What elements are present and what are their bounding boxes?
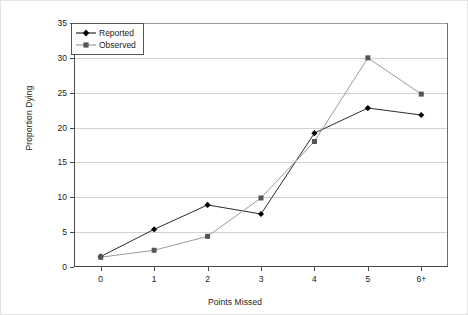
- x-tick-mark: [261, 267, 262, 271]
- x-tick-mark: [368, 267, 369, 271]
- x-tick-label: 0: [86, 275, 116, 284]
- y-tick-label: 20: [58, 124, 67, 133]
- data-point-square: [152, 248, 157, 253]
- data-point-square: [259, 195, 264, 200]
- data-point-square: [365, 55, 370, 60]
- legend-marker-square-icon: [76, 40, 96, 50]
- x-tick-label: 1: [139, 275, 169, 284]
- data-point-square: [205, 234, 210, 239]
- x-tick-label: 6+: [406, 275, 436, 284]
- legend-label-observed: Observed: [99, 41, 136, 50]
- x-tick-mark: [314, 267, 315, 271]
- y-axis-title: Proportion Dying: [24, 38, 34, 198]
- series-reported: [98, 105, 425, 260]
- plot-area: 05101520253035 0123456+: [74, 23, 448, 267]
- data-point-diamond: [365, 105, 371, 111]
- x-tick-mark: [421, 267, 422, 271]
- legend-marker-diamond-icon: [76, 28, 96, 38]
- data-point-square: [312, 139, 317, 144]
- y-tick-label: 15: [58, 158, 67, 167]
- legend: Reported Observed: [71, 23, 144, 55]
- data-point-diamond: [258, 211, 264, 217]
- y-tick-label: 25: [58, 89, 67, 98]
- data-point-diamond: [151, 226, 157, 232]
- data-point-diamond: [418, 112, 424, 118]
- legend-item-reported: Reported: [76, 27, 136, 39]
- x-tick-mark: [154, 267, 155, 271]
- data-point-square: [98, 255, 103, 260]
- x-tick-label: 5: [353, 275, 383, 284]
- series-line: [101, 58, 422, 257]
- y-tick-label: 5: [62, 228, 67, 237]
- y-tick-label: 10: [58, 193, 67, 202]
- x-tick-label: 4: [299, 275, 329, 284]
- legend-label-reported: Reported: [99, 29, 134, 38]
- x-tick-mark: [208, 267, 209, 271]
- y-tick-label: 0: [62, 263, 67, 272]
- series-observed: [98, 55, 424, 259]
- y-tick-mark: [70, 267, 74, 268]
- series-line: [101, 108, 422, 256]
- legend-item-observed: Observed: [76, 39, 136, 51]
- x-axis-title: Points Missed: [1, 297, 468, 307]
- data-point-square: [419, 92, 424, 97]
- x-tick-mark: [101, 267, 102, 271]
- y-tick-label: 35: [58, 19, 67, 28]
- x-tick-label: 3: [246, 275, 276, 284]
- x-tick-label: 2: [193, 275, 223, 284]
- series-layer: [74, 23, 448, 267]
- y-tick-label: 30: [58, 54, 67, 63]
- data-point-diamond: [204, 202, 210, 208]
- data-point-diamond: [311, 130, 317, 136]
- chart-figure: Proportion Dying Points Missed 051015202…: [0, 0, 468, 315]
